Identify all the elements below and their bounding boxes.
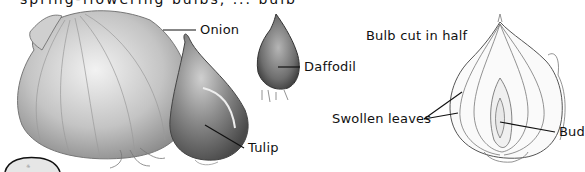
label-swollen-leaves: Swollen leaves <box>332 111 431 126</box>
seal-badge: ☼ <box>5 158 60 172</box>
label-tulip: Tulip <box>248 140 279 155</box>
svg-text:☼: ☼ <box>26 163 31 169</box>
label-daffodil: Daffodil <box>304 59 356 74</box>
label-bulb-cut-in-half: Bulb cut in half <box>366 28 467 43</box>
label-bud: Bud <box>559 124 585 139</box>
daffodil-drawing <box>257 14 299 102</box>
label-onion: Onion <box>200 22 239 37</box>
onion-drawing <box>18 11 191 168</box>
tulip-drawing <box>170 34 248 165</box>
